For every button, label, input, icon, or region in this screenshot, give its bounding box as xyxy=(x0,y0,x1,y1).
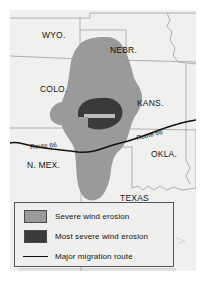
legend-swatch-wrap-0 xyxy=(15,210,55,223)
dust-bowl-map-figure: WYO. NEBR. COLO. KANS. N. MEX. OKLA. TEX… xyxy=(0,0,204,298)
legend-label-severe-erosion: Severe wind erosion xyxy=(55,212,129,221)
legend-swatch-wrap-2 xyxy=(15,256,55,257)
legend-label-most-severe-erosion: Most severe wind erosion xyxy=(55,232,148,241)
legend-swatch-wrap-1 xyxy=(15,230,55,243)
severe-erosion-swatch xyxy=(24,210,47,223)
legend-label-migration-route: Major migration route xyxy=(55,252,133,261)
migration-route-line-swatch xyxy=(23,256,48,257)
legend-item-most-severe-wind-erosion: Most severe wind erosion xyxy=(15,227,173,245)
map-legend: Severe wind erosion Most severe wind ero… xyxy=(14,202,174,267)
most-severe-erosion-swatch xyxy=(24,230,47,243)
erosion-region-notch xyxy=(84,114,115,118)
legend-item-severe-wind-erosion: Severe wind erosion xyxy=(15,207,173,225)
map-frame: WYO. NEBR. COLO. KANS. N. MEX. OKLA. TEX… xyxy=(10,10,196,271)
legend-item-major-migration-route: Major migration route xyxy=(15,247,173,265)
